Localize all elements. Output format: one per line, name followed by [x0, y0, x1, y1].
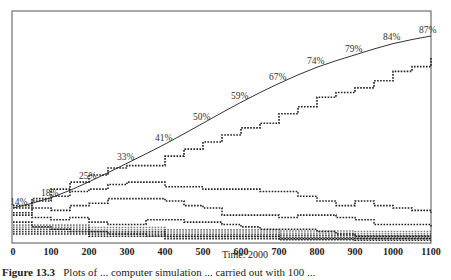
solid-curve	[13, 36, 431, 208]
percent-label: 41%	[155, 133, 173, 143]
x-tick-label: 300	[120, 246, 135, 257]
x-tick-label: 700	[272, 246, 287, 257]
x-tick-label: 1000	[383, 246, 403, 257]
percent-label: 18%	[41, 188, 59, 198]
percent-label: 67%	[269, 72, 287, 82]
x-axis-label: Time: 2000	[222, 249, 268, 260]
percent-label: 79%	[345, 44, 363, 54]
caption-label: Figure 13.3	[2, 266, 55, 278]
figure-caption: Figure 13.3 Plots of ... computer simula…	[2, 266, 315, 278]
percent-label: 25%	[79, 171, 97, 181]
percent-label: 59%	[231, 91, 249, 101]
series-layer	[13, 36, 431, 240]
line-chart: 14%18%25%33%41%50%59%67%74%79%84%87% 010…	[0, 0, 451, 262]
x-tick-label: 400	[158, 246, 173, 257]
x-tick-label: 200	[82, 246, 97, 257]
x-tick-label: 100	[44, 246, 59, 257]
percent-label: 87%	[419, 25, 437, 35]
x-tick-label: 800	[310, 246, 325, 257]
x-tick-label: 500	[196, 246, 211, 257]
dotted-series	[13, 225, 431, 231]
percent-label: 84%	[383, 32, 401, 42]
dotted-series	[13, 199, 431, 227]
x-tick-label: 1100	[421, 246, 440, 257]
percent-label: 33%	[117, 152, 135, 162]
percent-label: 14%	[10, 197, 28, 207]
x-tick-label: 900	[348, 246, 363, 257]
percent-label: 50%	[193, 112, 211, 122]
dotted-series	[13, 57, 431, 205]
percent-labels: 14%18%25%33%41%50%59%67%74%79%84%87%	[10, 25, 437, 207]
caption-text: Plots of ... computer simulation ... car…	[63, 266, 315, 278]
percent-label: 74%	[307, 56, 325, 66]
x-tick-label: 0	[11, 246, 16, 257]
dotted-series	[13, 215, 431, 236]
